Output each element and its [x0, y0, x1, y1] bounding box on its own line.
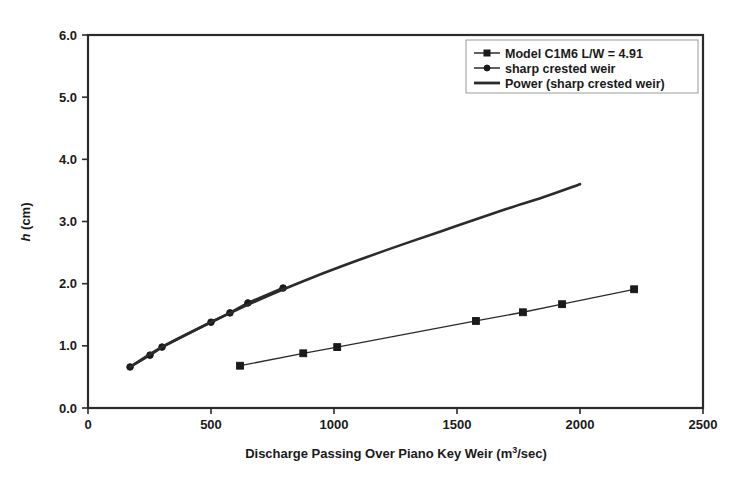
x-tick-label: 1000 — [320, 417, 349, 432]
data-point-marker — [334, 344, 341, 351]
y-tick-label: 3.0 — [59, 214, 77, 229]
y-axis-title: h (cm) — [18, 202, 33, 241]
x-tick-label: 500 — [200, 417, 222, 432]
x-tick-label: 2500 — [689, 417, 718, 432]
chart-container: 05001000150020002500 0.01.02.03.04.05.06… — [0, 0, 750, 488]
legend-label: Model C1M6 L/W = 4.91 — [505, 47, 643, 61]
y-tick-label: 0.0 — [59, 401, 77, 416]
y-label-unit: (cm) — [18, 202, 33, 233]
legend-label: Power (sharp crested weir) — [505, 77, 665, 91]
y-tick-label: 5.0 — [59, 90, 77, 105]
series-line — [240, 289, 634, 365]
chart-svg: 05001000150020002500 0.01.02.03.04.05.06… — [0, 0, 750, 488]
x-tick-label: 0 — [84, 417, 91, 432]
data-point-marker — [631, 286, 638, 293]
x-axis-tick-labels: 05001000150020002500 — [84, 417, 717, 432]
svg-text:Discharge Passing Over Piano K: Discharge Passing Over Piano Key Weir (m… — [245, 445, 547, 461]
y-tick-label: 1.0 — [59, 338, 77, 353]
series-2 — [130, 184, 580, 367]
data-series-layer — [127, 184, 638, 370]
svg-text:h (cm): h (cm) — [18, 202, 33, 241]
legend-label: sharp crested weir — [505, 62, 616, 76]
legend-square-marker-icon — [484, 50, 490, 56]
data-point-marker — [300, 350, 307, 357]
data-point-marker — [237, 362, 244, 369]
y-label-symbol: h — [18, 234, 33, 242]
legend-circle-marker-icon — [484, 65, 490, 71]
x-axis-title: Discharge Passing Over Piano Key Weir (m… — [245, 445, 547, 461]
y-tick-label: 6.0 — [59, 28, 77, 43]
y-tick-label: 2.0 — [59, 276, 77, 291]
x-label-tail: /sec) — [517, 446, 547, 461]
y-tick-label: 4.0 — [59, 152, 77, 167]
x-tick-label: 2000 — [566, 417, 595, 432]
data-point-marker — [559, 301, 566, 308]
x-label-main: Discharge Passing Over Piano Key Weir (m — [245, 446, 512, 461]
chart-legend: Model C1M6 L/W = 4.91sharp crested weirP… — [466, 40, 698, 93]
y-axis-tick-labels: 0.01.02.03.04.05.06.0 — [59, 28, 77, 416]
data-point-marker — [520, 309, 527, 316]
data-point-marker — [473, 318, 480, 325]
series-line — [130, 184, 580, 367]
x-tick-label: 1500 — [443, 417, 472, 432]
series-0 — [237, 286, 638, 369]
